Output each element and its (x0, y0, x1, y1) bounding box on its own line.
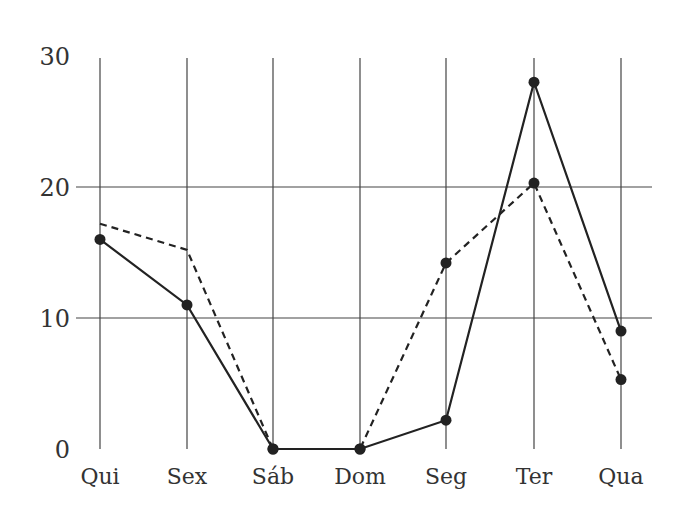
data-point-marker (616, 374, 627, 385)
x-tick-label: Sáb (252, 464, 294, 489)
data-point-marker (355, 444, 366, 455)
x-axis-ticks: QuiSexSábDomSegTerQua (80, 464, 643, 489)
x-tick-label: Seg (425, 464, 467, 489)
data-point-marker (182, 299, 193, 310)
data-point-marker (529, 77, 540, 88)
x-tick-label: Sex (167, 464, 208, 489)
data-point-marker (441, 415, 452, 426)
data-point-marker (441, 257, 452, 268)
x-tick-label: Ter (516, 464, 553, 489)
data-point-marker (529, 178, 540, 189)
x-tick-label: Qua (598, 464, 643, 489)
x-tick-label: Qui (80, 464, 119, 489)
data-point-marker (616, 326, 627, 337)
y-tick-label: 30 (39, 43, 70, 71)
y-tick-label: 10 (39, 305, 70, 333)
x-tick-label: Dom (334, 464, 386, 489)
y-tick-label: 20 (39, 174, 70, 202)
data-point-marker (95, 234, 106, 245)
line-chart: 0102030 QuiSexSábDomSegTerQua (0, 0, 685, 516)
data-point-marker (268, 444, 279, 455)
y-tick-label: 0 (55, 436, 70, 464)
y-axis-ticks: 0102030 (39, 43, 70, 464)
